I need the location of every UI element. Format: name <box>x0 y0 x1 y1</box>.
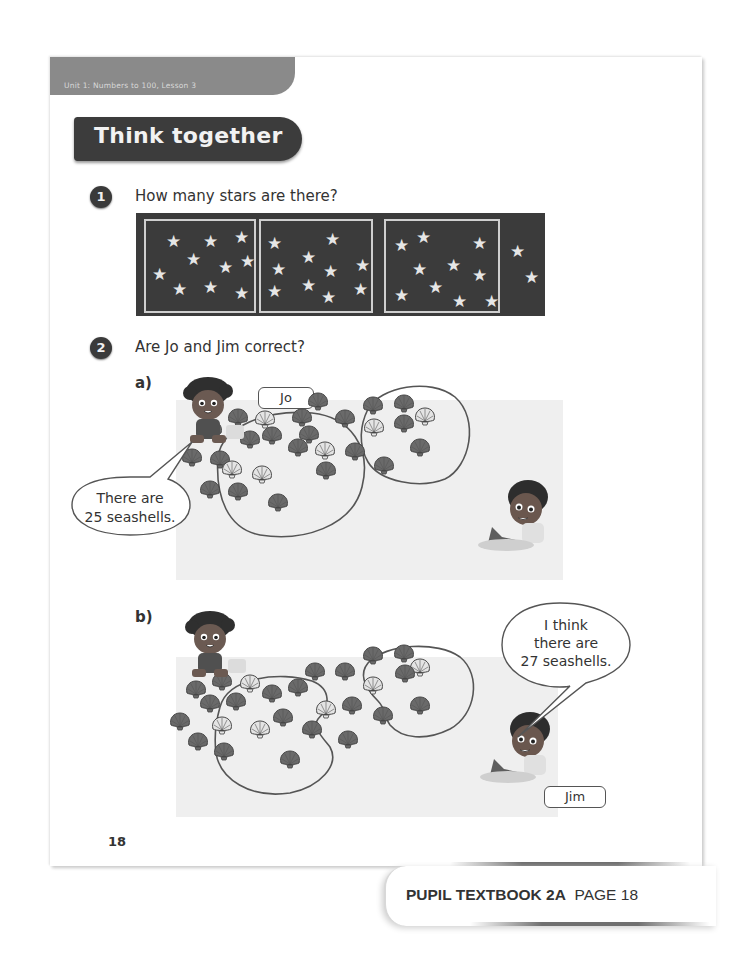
seashell-icon <box>281 751 300 768</box>
seashell-icon <box>317 701 336 718</box>
seashell-icon <box>336 410 355 427</box>
seashell-icon <box>227 693 246 710</box>
jim-character <box>478 480 548 551</box>
seashell-icon <box>411 439 430 456</box>
seashell-icon <box>374 707 393 724</box>
seashell-icon <box>253 466 272 483</box>
seashell-icon <box>274 709 293 726</box>
seashell-icon <box>256 411 275 428</box>
footer-label: PUPIL TEXTBOOK 2A PAGE 18 <box>406 886 638 904</box>
seashell-icon <box>263 427 282 444</box>
seashell-icon <box>251 721 270 738</box>
illustration-layer: There are25 seashells.I thinkthere are27… <box>50 57 702 866</box>
seashell-icon <box>346 443 365 460</box>
seashell-icon <box>201 481 220 498</box>
seashell-icon <box>289 679 308 696</box>
seashell-icon <box>395 395 414 412</box>
jo-character <box>185 611 246 677</box>
seashell-icon <box>293 409 312 426</box>
seashell-icon <box>269 494 288 511</box>
seashell-icon <box>316 442 335 459</box>
seashell-icon <box>187 681 206 698</box>
footer-divider-bottom <box>470 922 710 926</box>
seashell-icon <box>343 697 362 714</box>
seashell-icon <box>289 439 308 456</box>
seashell-icon <box>229 483 248 500</box>
seashell-icon <box>364 647 383 664</box>
speech-text-jo-line2: 25 seashells. <box>84 509 175 525</box>
seashell-icon <box>396 665 415 682</box>
seashell-icon <box>365 419 384 436</box>
speech-text-jim-line3: 27 seashells. <box>520 653 611 669</box>
seashell-icon <box>303 721 322 738</box>
seashell-icon <box>336 663 355 680</box>
seashell-icon <box>309 393 328 410</box>
seashell-icon <box>201 695 220 712</box>
seashell-icon <box>306 663 325 680</box>
seashell-icon <box>339 731 358 748</box>
seashell-icon <box>317 462 336 479</box>
jim-character <box>480 712 550 783</box>
speech-text-jo-line1: There are <box>95 490 163 506</box>
page-number: 18 <box>108 834 126 849</box>
footer-page: PAGE 18 <box>575 886 638 903</box>
seashell-icon <box>395 415 414 432</box>
seashell-icon <box>223 461 242 478</box>
textbook-page: Unit 1: Numbers to 100, Lesson 3 Think t… <box>50 57 702 866</box>
seashell-icon <box>171 713 190 730</box>
speech-text-jim-line1: I think <box>544 617 589 633</box>
seashell-icon <box>364 677 383 694</box>
seashell-icon <box>411 697 430 714</box>
seashell-icon <box>241 675 260 692</box>
seashell-icon <box>416 408 435 425</box>
footer-book: PUPIL TEXTBOOK 2A <box>406 886 566 903</box>
seashell-icon <box>189 733 208 750</box>
seashell-icon <box>395 645 414 662</box>
speech-text-jim-line2: there are <box>534 635 598 651</box>
seashell-icon <box>263 685 282 702</box>
